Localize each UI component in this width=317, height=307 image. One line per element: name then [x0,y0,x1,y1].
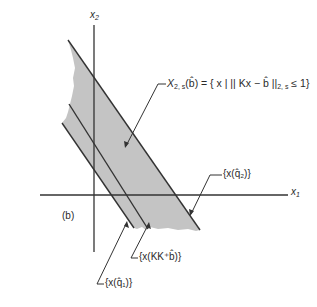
region-label-sub2: 2, s [277,83,288,90]
x2-axis-label: x2 [90,10,99,21]
leader-q1 [97,224,126,284]
x1-label-sub: 1 [296,191,300,198]
region-label-main: X [167,77,174,89]
region-label-rest: (b̂) = { x | || Kx − b̂ || [185,77,277,89]
region-label: X2, s(b̂) = { x | || Kx − b̂ ||2, s ≤ 1} [167,78,309,90]
label-kkb: {x(KK⁺b̂)} [139,252,181,262]
panel-label: (b) [62,211,74,221]
x2-label-sub: 2 [95,14,99,21]
x1-axis-label: x1 [291,187,300,198]
region-label-sub: 2, s [174,83,185,90]
region-label-end: ≤ 1} [288,77,309,89]
label-q2: {x(q̂₂)} [223,169,251,179]
label-q1: {x(q̂₁)} [105,278,132,288]
